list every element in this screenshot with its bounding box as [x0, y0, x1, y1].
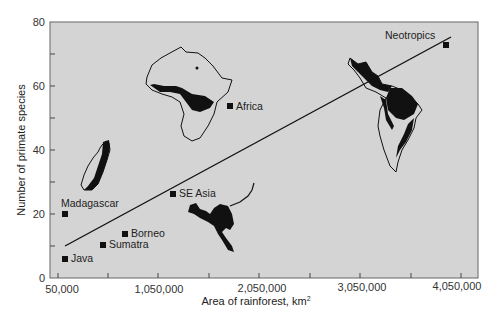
x-axis-title: Area of rainforest, km2 — [201, 295, 310, 307]
svg-text:Java: Java — [71, 252, 93, 264]
svg-text:Madagascar: Madagascar — [61, 197, 119, 209]
svg-text:SE Asia: SE Asia — [179, 187, 216, 199]
svg-text:3,050,000: 3,050,000 — [338, 281, 387, 293]
svg-text:Africa: Africa — [236, 100, 263, 112]
svg-text:4,050,000: 4,050,000 — [433, 280, 482, 292]
svg-text:Borneo: Borneo — [131, 227, 165, 239]
y-tick-labels: 0 20 40 60 80 — [33, 16, 45, 284]
svg-text:Sumatra: Sumatra — [109, 238, 149, 250]
svg-text:0: 0 — [39, 272, 45, 284]
x-tick-labels: 50,000 1,050,000 2,050,000 3,050,000 4,0… — [45, 280, 481, 295]
svg-text:60: 60 — [33, 80, 45, 92]
scatter-chart: 0 20 40 60 80 50,000 1,050,000 2,050,000… — [0, 0, 498, 317]
svg-text:20: 20 — [33, 208, 45, 220]
svg-text:50,000: 50,000 — [45, 283, 79, 295]
svg-text:2,050,000: 2,050,000 — [238, 282, 287, 294]
svg-text:80: 80 — [33, 16, 45, 28]
svg-text:1,050,000: 1,050,000 — [135, 283, 184, 295]
svg-text:Neotropics: Neotropics — [385, 29, 435, 41]
y-axis-title: Number of primate species — [15, 84, 27, 216]
svg-text:40: 40 — [33, 144, 45, 156]
